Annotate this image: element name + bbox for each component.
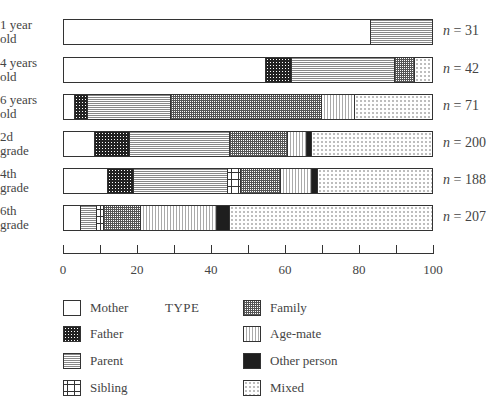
legend-label: Family	[270, 300, 307, 316]
bar-segment-mixed	[415, 58, 432, 82]
stacked-bar	[63, 205, 433, 231]
sample-size-label: n = 188	[443, 172, 486, 188]
bar-segment-father	[75, 95, 88, 119]
row-label-line: old	[0, 70, 60, 84]
legend-swatch-age-mate	[243, 326, 261, 342]
x-axis-tick	[248, 245, 249, 254]
row-label-line: 2d	[0, 130, 60, 144]
legend-swatch-mixed	[243, 380, 261, 396]
bar-segment-age-mate	[141, 206, 216, 230]
bar-segment-family	[171, 95, 322, 119]
bar-segment-parent	[81, 206, 98, 230]
stacked-bar	[63, 168, 433, 194]
sample-size-label: n = 31	[443, 23, 479, 39]
x-axis-tick	[285, 245, 286, 254]
bar-segment-mixed	[312, 132, 432, 156]
row-label-line: 4 years	[0, 56, 60, 70]
x-axis-tick	[359, 245, 360, 254]
bar-segment-mixed	[318, 169, 432, 193]
bar-segment-mother	[64, 169, 108, 193]
bar-segment-family	[241, 169, 281, 193]
x-axis-tick-label: 100	[423, 262, 443, 278]
row-label-line: grade	[0, 181, 60, 195]
bar-segment-age-mate	[288, 132, 306, 156]
legend-label: Sibling	[90, 380, 128, 396]
row-label-line: grade	[0, 144, 60, 158]
x-axis-tick	[396, 245, 397, 254]
x-axis-tick-label: 60	[279, 262, 292, 278]
legend-swatch-father	[63, 326, 81, 342]
row-label: 6 yearsold	[0, 93, 60, 121]
bar-segment-sibling	[228, 169, 241, 193]
stacked-bar	[63, 131, 433, 157]
legend-label: Mother	[90, 300, 128, 316]
x-axis-tick	[137, 245, 138, 254]
bar-segment-mother	[64, 206, 81, 230]
legend-label: Father	[90, 326, 123, 342]
bar-segment-father	[266, 58, 292, 82]
legend-label: Parent	[90, 353, 123, 369]
bar-segment-sibling	[97, 206, 104, 230]
bar-segment-father	[95, 132, 130, 156]
bar-segment-mixed	[355, 95, 432, 119]
sample-size-label: n = 42	[443, 61, 479, 77]
bar-segment-age-mate	[322, 95, 355, 119]
row-label-line: 1 year	[0, 18, 60, 32]
bar-segment-father	[108, 169, 134, 193]
legend-label: Other person	[270, 353, 338, 369]
bar-segment-parent	[130, 132, 229, 156]
legend-label: Age-mate	[270, 326, 321, 342]
bar-segment-parent	[292, 58, 395, 82]
row-label-line: 6 years	[0, 93, 60, 107]
x-axis-tick-label: 40	[205, 262, 218, 278]
x-axis-tick-label: 20	[131, 262, 144, 278]
row-label-line: grade	[0, 218, 60, 232]
bar-segment-age-mate	[281, 169, 312, 193]
x-axis-tick	[322, 245, 323, 254]
stacked-bar	[63, 57, 433, 83]
legend-swatch-other-person	[243, 353, 261, 369]
bar-segment-family	[230, 132, 289, 156]
stacked-bar	[63, 19, 433, 45]
legend-title: TYPE	[165, 300, 200, 316]
bar-segment-mother	[64, 20, 371, 44]
legend-swatch-mother	[63, 300, 81, 316]
stacked-bar	[63, 94, 433, 120]
bar-segment-other-person	[217, 206, 230, 230]
sample-size-label: n = 200	[443, 135, 486, 151]
row-label-line: old	[0, 32, 60, 46]
bar-segment-parent	[134, 169, 228, 193]
x-axis-tick	[100, 245, 101, 254]
x-axis-tick	[211, 245, 212, 254]
row-label: 6thgrade	[0, 204, 60, 232]
row-label-line: old	[0, 107, 60, 121]
bar-segment-mother	[64, 58, 266, 82]
row-label-line: 6th	[0, 204, 60, 218]
row-label: 1 yearold	[0, 18, 60, 46]
bar-segment-mother	[64, 132, 95, 156]
x-axis-tick	[63, 245, 64, 254]
sample-size-label: n = 207	[443, 209, 486, 225]
x-axis-tick	[174, 245, 175, 254]
legend-swatch-family	[243, 300, 261, 316]
bar-segment-family	[395, 58, 415, 82]
bar-segment-mother	[64, 95, 75, 119]
x-axis-tick-label: 80	[353, 262, 366, 278]
x-axis-tick-label: 0	[60, 262, 67, 278]
bar-segment-mixed	[230, 206, 432, 230]
row-label: 4thgrade	[0, 167, 60, 195]
sample-size-label: n = 71	[443, 98, 479, 114]
bar-segment-family	[104, 206, 141, 230]
row-label: 4 yearsold	[0, 56, 60, 84]
legend-swatch-sibling	[63, 380, 81, 396]
bar-segment-parent	[371, 20, 432, 44]
x-axis-tick	[433, 245, 434, 254]
row-label-line: 4th	[0, 167, 60, 181]
bar-segment-parent	[88, 95, 171, 119]
legend-label: Mixed	[270, 380, 304, 396]
legend-swatch-parent	[63, 353, 81, 369]
row-label: 2dgrade	[0, 130, 60, 158]
